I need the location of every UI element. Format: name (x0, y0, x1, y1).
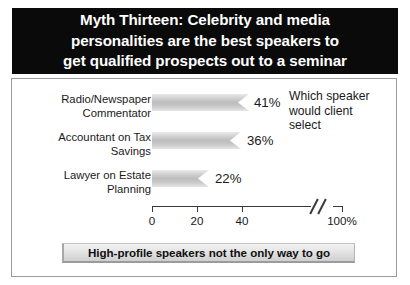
annotation-line-2: would client (289, 104, 353, 118)
category-label-2: Lawyer on Estate Planning (19, 169, 151, 196)
category-label-1: Accountant on Tax Savings (19, 131, 151, 158)
callout-banner: High-profile speakers not the only way t… (62, 243, 355, 263)
axis-tick-label-40: 40 (236, 214, 249, 227)
axis-tick-label-100: 100% (327, 214, 357, 227)
axis-tick-label-0: 0 (149, 214, 155, 227)
axis-tick-label-20: 20 (191, 214, 204, 227)
category-label-0: Radio/Newspaper Commentator (19, 93, 151, 120)
category-label-1-line-2: Savings (111, 145, 151, 157)
slide-root: Myth Thirteen: Celebrity and media perso… (0, 0, 410, 285)
title-line-1: Myth Thirteen: Celebrity and media (80, 11, 330, 28)
title-line-2: personalities are the best speakers to (71, 32, 339, 49)
annotation-text: Which speaker would client select (289, 89, 397, 133)
category-label-1-line-1: Accountant on Tax (58, 131, 151, 143)
bar-value-0: 41% (254, 94, 280, 111)
bar-value-1: 36% (247, 132, 273, 149)
axis-tick-20 (197, 206, 198, 212)
bar-0 (152, 94, 249, 111)
axis-line-main (152, 206, 319, 207)
category-label-2-line-2: Planning (107, 183, 151, 195)
bar-1 (152, 132, 241, 149)
axis-tick-0 (152, 206, 153, 212)
category-label-0-line-1: Radio/Newspaper (61, 93, 151, 105)
category-label-2-line-1: Lawyer on Estate (64, 169, 151, 181)
category-label-0-line-2: Commentator (83, 107, 151, 119)
axis-tick-40 (242, 206, 243, 212)
callout-banner-text: High-profile speakers not the only way t… (88, 246, 330, 259)
title-line-3: get qualified prospects out to a seminar (63, 52, 347, 69)
title-banner: Myth Thirteen: Celebrity and media perso… (12, 8, 398, 74)
axis-tick-100 (342, 206, 343, 212)
annotation-line-1: Which speaker (289, 89, 370, 103)
annotation-line-3: select (289, 118, 321, 132)
bar-value-2: 22% (215, 170, 241, 187)
bar-2 (152, 170, 209, 187)
title-text: Myth Thirteen: Celebrity and media perso… (55, 10, 355, 72)
